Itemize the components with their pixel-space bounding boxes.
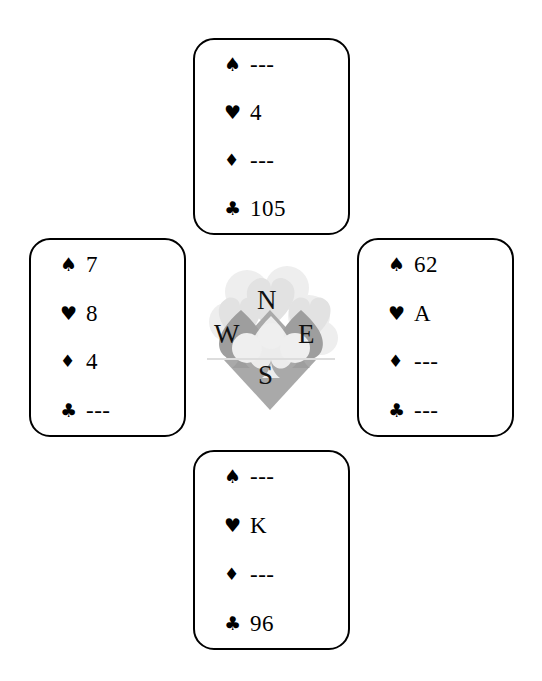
spade-icon: ♠	[388, 255, 414, 274]
suit-row-diamonds: ♦ 4	[31, 338, 184, 387]
west-diamonds-cards: 4	[86, 350, 98, 373]
diamond-icon: ♦	[224, 566, 250, 583]
spade-icon: ♠	[60, 255, 86, 274]
suit-row-hearts: ♥ 4	[195, 88, 348, 136]
compass-rose: N W E S	[201, 264, 341, 412]
suit-row-diamonds: ♦ ---	[195, 137, 348, 185]
suit-row-clubs: ♣ ---	[359, 386, 512, 435]
suit-row-diamonds: ♦ ---	[359, 338, 512, 387]
east-clubs-cards: ---	[414, 399, 438, 422]
club-icon: ♣	[224, 614, 250, 633]
east-spades-cards: 62	[414, 253, 438, 276]
diamond-icon: ♦	[388, 353, 414, 370]
heart-icon: ♥	[224, 103, 250, 122]
diamond-icon: ♦	[60, 353, 86, 370]
north-spades-cards: ---	[250, 53, 274, 76]
north-hearts-cards: 4	[250, 101, 262, 124]
suit-row-diamonds: ♦ ---	[195, 550, 348, 599]
south-clubs-cards: 96	[250, 612, 274, 635]
hand-box-east[interactable]: ♠ 62 ♥ A ♦ --- ♣ ---	[357, 238, 514, 437]
spade-icon: ♠	[224, 55, 250, 74]
compass-label-west: W	[214, 321, 239, 348]
heart-icon: ♥	[224, 516, 250, 535]
suit-row-hearts: ♥ A	[359, 289, 512, 338]
suit-row-clubs: ♣ 96	[195, 599, 348, 648]
suit-row-hearts: ♥ 8	[31, 289, 184, 338]
heart-icon: ♥	[388, 304, 414, 323]
north-clubs-cards: 105	[250, 197, 286, 220]
compass-label-south: S	[258, 362, 273, 389]
compass-label-north: N	[257, 287, 277, 314]
club-icon: ♣	[60, 401, 86, 420]
hand-box-north[interactable]: ♠ --- ♥ 4 ♦ --- ♣ 105	[193, 38, 350, 235]
diamond-icon: ♦	[224, 152, 250, 169]
north-diamonds-cards: ---	[250, 149, 274, 172]
hand-box-west[interactable]: ♠ 7 ♥ 8 ♦ 4 ♣ ---	[29, 238, 186, 437]
west-clubs-cards: ---	[86, 399, 110, 422]
suit-row-spades: ♠ 62	[359, 240, 512, 289]
south-diamonds-cards: ---	[250, 563, 274, 586]
south-hearts-cards: K	[250, 514, 267, 537]
west-hearts-cards: 8	[86, 302, 98, 325]
bridge-hand-diagram: ♠ --- ♥ 4 ♦ --- ♣ 105 ♠ 7 ♥ 8 ♦ 4 ♣	[0, 0, 542, 681]
compass-label-east: E	[298, 321, 315, 348]
club-icon: ♣	[224, 199, 250, 218]
suit-row-clubs: ♣ 105	[195, 185, 348, 233]
heart-icon: ♥	[60, 304, 86, 323]
suit-row-hearts: ♥ K	[195, 501, 348, 550]
east-diamonds-cards: ---	[414, 350, 438, 373]
suit-row-spades: ♠ ---	[195, 40, 348, 88]
hand-box-south[interactable]: ♠ --- ♥ K ♦ --- ♣ 96	[193, 450, 350, 650]
south-spades-cards: ---	[250, 465, 274, 488]
east-hearts-cards: A	[414, 302, 431, 325]
suit-row-clubs: ♣ ---	[31, 386, 184, 435]
spade-icon: ♠	[224, 467, 250, 486]
suit-row-spades: ♠ ---	[195, 452, 348, 501]
west-spades-cards: 7	[86, 253, 98, 276]
suit-row-spades: ♠ 7	[31, 240, 184, 289]
club-icon: ♣	[388, 401, 414, 420]
